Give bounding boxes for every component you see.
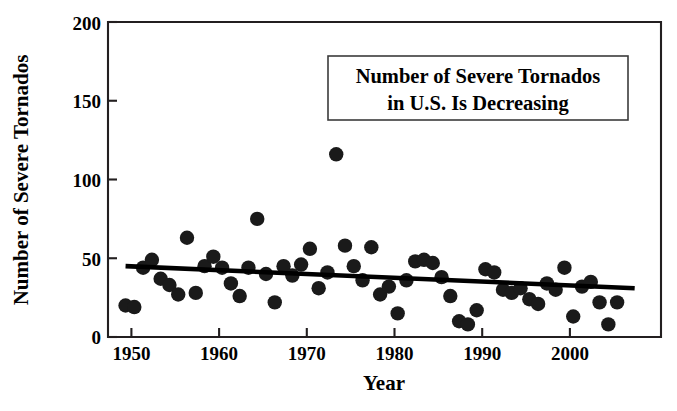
data-point bbox=[364, 240, 378, 254]
y-tick-label: 200 bbox=[73, 13, 102, 34]
x-tick-label: 1960 bbox=[200, 343, 238, 364]
title-line-2: in U.S. Is Decreasing bbox=[387, 92, 569, 115]
data-point bbox=[232, 289, 246, 303]
data-point bbox=[127, 300, 141, 314]
data-point bbox=[566, 309, 580, 323]
y-tick-label: 100 bbox=[73, 170, 102, 191]
x-tick-label: 2000 bbox=[551, 343, 589, 364]
y-axis-tick-labels: 0 50 100 150 200 bbox=[73, 13, 102, 349]
data-point bbox=[610, 295, 624, 309]
y-axis-ticks bbox=[108, 22, 117, 337]
data-point bbox=[268, 295, 282, 309]
data-point bbox=[461, 317, 475, 331]
data-points-layer bbox=[118, 147, 624, 331]
x-tick-label: 1950 bbox=[112, 343, 150, 364]
data-point bbox=[189, 286, 203, 300]
data-point bbox=[338, 238, 352, 252]
data-point bbox=[531, 297, 545, 311]
data-point bbox=[180, 231, 194, 245]
data-point bbox=[390, 306, 404, 320]
x-tick-label: 1980 bbox=[376, 343, 414, 364]
x-tick-label: 1990 bbox=[463, 343, 501, 364]
data-point bbox=[171, 287, 185, 301]
data-point bbox=[426, 256, 440, 270]
y-tick-label: 0 bbox=[92, 327, 102, 348]
y-axis-title: Number of Severe Tornados bbox=[9, 55, 33, 306]
data-point bbox=[329, 147, 343, 161]
data-point bbox=[250, 212, 264, 226]
title-annotation-box: Number of Severe Tornados in U.S. Is Dec… bbox=[328, 56, 628, 120]
data-point bbox=[224, 276, 238, 290]
data-point bbox=[487, 265, 501, 279]
scatter-plot-svg: 0 50 100 150 200 1950 1960 1970 1980 199… bbox=[0, 0, 677, 411]
data-point bbox=[557, 261, 571, 275]
data-point bbox=[601, 317, 615, 331]
title-line-1: Number of Severe Tornados bbox=[356, 65, 601, 87]
chart-figure: 0 50 100 150 200 1950 1960 1970 1980 199… bbox=[0, 0, 677, 411]
x-axis-ticks bbox=[131, 328, 570, 337]
data-point bbox=[592, 295, 606, 309]
data-point bbox=[469, 303, 483, 317]
x-tick-label: 1970 bbox=[288, 343, 326, 364]
y-tick-label: 50 bbox=[82, 249, 101, 270]
x-axis-tick-labels: 1950 1960 1970 1980 1990 2000 bbox=[112, 343, 589, 364]
data-point bbox=[382, 279, 396, 293]
x-axis-title: Year bbox=[363, 371, 405, 395]
data-point bbox=[443, 289, 457, 303]
data-point bbox=[294, 257, 308, 271]
data-point bbox=[347, 259, 361, 273]
y-tick-label: 150 bbox=[73, 91, 102, 112]
data-point bbox=[303, 242, 317, 256]
data-point bbox=[311, 281, 325, 295]
